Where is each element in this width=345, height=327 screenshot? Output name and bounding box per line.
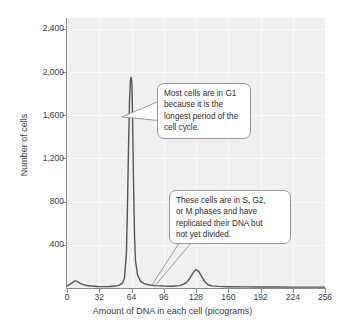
x-axis-tick-label: 96 [159,293,168,302]
callout-sg2m-line-4: not yet divided. [176,229,284,240]
x-axis-title: Amount of DNA in each cell (picograms) [0,306,345,316]
x-axis-tick-label: 0 [65,293,70,302]
callout-g1-line-4: cell cycle. [164,122,244,133]
x-axis-tick-label: 256 [318,293,332,302]
data-curve [67,18,325,288]
x-axis-tick-label: 64 [127,293,136,302]
x-axis-tick-label: 32 [95,293,104,302]
callout-sg2m: These cells are in S, G2, or M phases an… [169,190,291,244]
callout-g1-line-3: longest period of the [164,111,244,122]
y-axis-tick-label: 2,400 [43,24,64,33]
dna-histogram-figure: 4008001,2001,6002,0002,400 0326496128160… [0,0,345,327]
x-axis-tick-label: 160 [221,293,235,302]
y-axis-title: Number of cells [19,75,29,215]
y-axis-tick-label: 1,200 [43,154,64,163]
callout-g1-line-1: Most cells are in G1 [164,88,244,99]
x-axis-tick-label: 224 [286,293,300,302]
callout-sg2m-line-2: or M phases and have [176,206,284,217]
callout-sg2m-line-3: replicated their DNA but [176,218,284,229]
y-axis-tick-label: 1,600 [43,111,64,120]
x-axis-tick-label: 192 [253,293,267,302]
y-axis-tick-label: 400 [50,240,64,249]
plot-area [67,18,325,288]
y-axis-tick-label: 2,000 [43,68,64,77]
x-axis-tick-label: 128 [189,293,203,302]
callout-g1-line-2: because it is the [164,99,244,110]
callout-g1: Most cells are in G1 because it is the l… [157,83,251,139]
callout-sg2m-line-1: These cells are in S, G2, [176,195,284,206]
y-axis-line [66,18,67,289]
y-axis-tick-label: 800 [50,197,64,206]
